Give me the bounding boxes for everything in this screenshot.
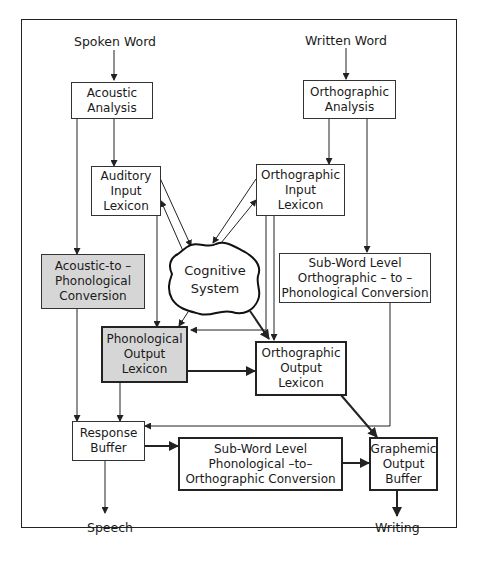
node-orthographic-input-lexicon: Orthographic Input Lexicon — [256, 164, 345, 216]
input-written-word: Written Word — [305, 33, 387, 48]
node-auditory-input-lexicon: Auditory Input Lexicon — [91, 166, 161, 216]
node-subword-orthographic-to-phonological: Sub-Word Level Orthographic – to – Phono… — [279, 253, 431, 303]
node-subword-phonological-to-orthographic: Sub-Word Level Phonological –to– Orthogr… — [178, 437, 343, 491]
output-writing: Writing — [375, 520, 420, 535]
output-speech: Speech — [87, 520, 133, 535]
node-phonological-output-lexicon: Phonological Output Lexicon — [101, 326, 188, 383]
node-cognitive-system: Cognitive System — [180, 262, 250, 298]
node-acoustic-to-phonological-conversion: Acoustic-to – Phonological Conversion — [41, 254, 145, 309]
node-graphemic-output-buffer: Graphemic Output Buffer — [369, 437, 438, 491]
node-orthographic-output-lexicon: Orthographic Output Lexicon — [255, 341, 347, 396]
node-orthographic-analysis: Orthographic Analysis — [303, 80, 396, 119]
node-acoustic-analysis: Acoustic Analysis — [71, 82, 153, 119]
input-spoken-word: Spoken Word — [74, 34, 156, 49]
node-response-buffer: Response Buffer — [72, 421, 145, 461]
